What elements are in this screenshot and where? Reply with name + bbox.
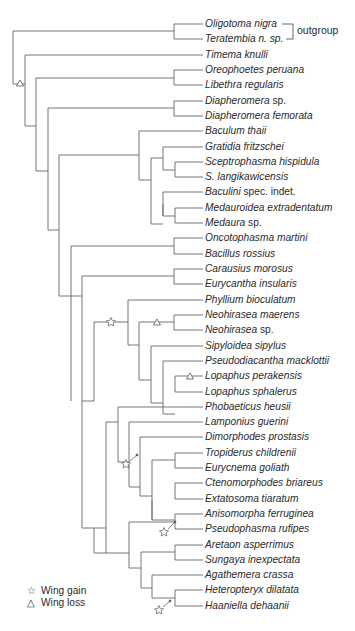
taxon-label: Medauroidea extradentatum	[205, 202, 332, 214]
legend-label: Wing gain	[41, 585, 86, 597]
legend-item-wing-gain: ☆ Wing gain	[26, 585, 86, 597]
taxon-label: Extatosoma tiaratum	[205, 493, 298, 505]
taxon-name: Lamponius guerini	[205, 416, 288, 427]
taxon-label: Bacillus rossius	[205, 248, 275, 260]
tree-branches	[13, 24, 203, 606]
taxon-label: Sungaya inexpectata	[205, 554, 300, 566]
taxon-name: Gratidia fritzschei	[205, 141, 284, 152]
taxon-name: Sungaya inexpectata	[205, 554, 300, 565]
taxon-name: Libethra regularis	[205, 79, 284, 90]
taxon-name: Sipyloidea sipylus	[205, 340, 286, 351]
wing-loss-triangle-icon	[17, 80, 24, 86]
taxon-name: Haaniella dehaanii	[205, 600, 289, 611]
taxon-name: Oncotophasma martini	[205, 232, 308, 243]
taxon-name: Agathemera crassa	[205, 569, 293, 580]
taxon-label: S. langikawicensis	[205, 171, 288, 183]
taxon-label: Haaniella dehaanii	[205, 600, 289, 612]
wing-gain-star-icon	[160, 528, 169, 537]
taxon-suffix: sp.	[270, 95, 286, 106]
taxon-name: Baculum thaii	[205, 125, 266, 136]
taxon-name: Neohirasea maerens	[205, 309, 300, 320]
taxon-name: Eurycantha insularis	[205, 278, 297, 289]
legend-item-wing-loss: △ Wing loss	[26, 597, 86, 609]
taxon-label: Phobaeticus heusii	[205, 401, 291, 413]
taxon-label: Aretaon asperrimus	[205, 539, 294, 551]
taxon-label: Agathemera crassa	[205, 569, 293, 581]
taxon-name: Anisomorpha ferruginea	[205, 508, 314, 519]
taxon-label: Lopaphus sphalerus	[205, 386, 297, 398]
taxon-label: Libethra regularis	[205, 79, 284, 91]
taxon-label: Medaura sp.	[205, 217, 262, 229]
taxon-name: Diapheromera femorata	[205, 110, 313, 121]
taxon-label: Oncotophasma martini	[205, 232, 308, 244]
outgroup-label: outgroup	[297, 24, 338, 36]
taxon-label: Teratembia n. sp.	[205, 33, 283, 45]
taxon-label: Diapheromera sp.	[205, 95, 286, 107]
taxon-label: Anisomorpha ferruginea	[205, 508, 314, 520]
taxon-name: Pseudodiacantha macklottii	[205, 355, 329, 366]
taxon-label: Heteropteryx dilatata	[205, 584, 299, 596]
taxon-name: Ctenomorphodes briareus	[205, 477, 323, 488]
taxon-label: Timema knulli	[205, 49, 268, 61]
taxon-name: S. langikawicensis	[205, 171, 288, 182]
taxon-name: Tropiderus childrenii	[205, 447, 296, 458]
taxon-label: Carausius morosus	[205, 263, 293, 275]
taxon-name: Extatosoma tiaratum	[205, 493, 298, 504]
taxon-name: Eurycnema goliath	[205, 462, 289, 473]
taxon-name: Dimorphodes prostasis	[205, 431, 309, 442]
taxon-label: Tropiderus childrenii	[205, 447, 296, 459]
taxon-name: Oligotoma nigra	[205, 18, 277, 29]
taxon-suffix: sp.	[257, 324, 273, 335]
wing-loss-markers	[17, 80, 194, 379]
taxon-label: Phyllium bioculatum	[205, 294, 296, 306]
taxon-label: Sipyloidea sipylus	[205, 340, 286, 352]
taxon-name: Lopaphus perakensis	[205, 370, 302, 381]
taxon-name: Carausius morosus	[205, 263, 293, 274]
taxon-name: Bacillus rossius	[205, 248, 275, 259]
taxon-label: Diapheromera femorata	[205, 110, 313, 122]
taxon-label: Baculum thaii	[205, 125, 266, 137]
taxon-name: Oreophoetes peruana	[205, 64, 304, 75]
taxon-name: Neohirasea	[205, 324, 257, 335]
taxon-name: Pseudophasma rufipes	[205, 523, 309, 534]
taxon-label: Neohirasea maerens	[205, 309, 300, 321]
legend-label: Wing loss	[41, 597, 85, 609]
taxon-name: Teratembia n. sp.	[205, 33, 283, 44]
taxon-label: Neohirasea sp.	[205, 324, 274, 336]
taxon-label: Pseudophasma rufipes	[205, 523, 309, 535]
triangle-icon: △	[26, 597, 36, 609]
taxon-label: Eurycantha insularis	[205, 278, 297, 290]
taxon-name: Heteropteryx dilatata	[205, 584, 299, 595]
taxon-label: Oligotoma nigra	[205, 18, 277, 30]
outgroup-bracket	[282, 24, 293, 39]
taxon-name: Baculini	[205, 186, 241, 197]
taxon-label: Oreophoetes peruana	[205, 64, 304, 76]
taxon-suffix: spec. indet.	[241, 186, 296, 197]
wing-gain-star-icon	[155, 606, 164, 615]
taxon-label: Eurycnema goliath	[205, 462, 289, 474]
wing-gain-star-icon	[107, 318, 116, 327]
phylogenetic-tree	[0, 0, 355, 631]
taxon-label: Ctenomorphodes briareus	[205, 477, 323, 489]
taxon-name: Phyllium bioculatum	[205, 294, 296, 305]
wing-gain-markers	[107, 318, 169, 615]
taxon-label: Dimorphodes prostasis	[205, 431, 309, 443]
taxon-name: Timema knulli	[205, 49, 268, 60]
taxon-name: Diapheromera	[205, 95, 270, 106]
taxon-name: Sceptrophasma hispidula	[205, 156, 319, 167]
taxon-name: Phobaeticus heusii	[205, 401, 291, 412]
taxon-label: Baculini spec. indet.	[205, 186, 296, 198]
taxon-name: Medaura	[205, 217, 245, 228]
star-icon: ☆	[26, 585, 36, 597]
taxon-label: Pseudodiacantha macklottii	[205, 355, 329, 367]
taxon-name: Aretaon asperrimus	[205, 539, 294, 550]
taxon-name: Lopaphus sphalerus	[205, 386, 297, 397]
taxon-label: Lopaphus perakensis	[205, 370, 302, 382]
legend: ☆ Wing gain △ Wing loss	[26, 585, 86, 609]
taxon-name: Medauroidea extradentatum	[205, 202, 332, 213]
taxon-label: Lamponius guerini	[205, 416, 288, 428]
taxon-label: Sceptrophasma hispidula	[205, 156, 319, 168]
taxon-label: Gratidia fritzschei	[205, 141, 284, 153]
taxon-suffix: sp.	[245, 217, 261, 228]
